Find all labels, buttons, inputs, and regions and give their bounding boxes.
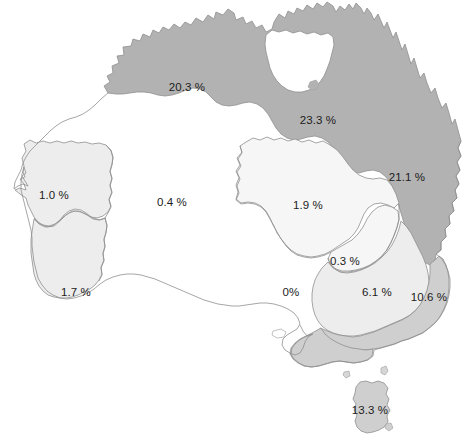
king-island <box>343 371 350 378</box>
tasman-peninsula-islet <box>385 423 393 431</box>
flinders-island <box>381 366 388 375</box>
australia-choropleth-map: 20.3 % 23.3 % 21.1 % 1.0 % 0.4 % 1.9 % 1… <box>0 0 465 443</box>
map-svg-canvas <box>0 0 465 443</box>
region-shape-wa-northwest <box>15 140 113 226</box>
peninsula-detail-sa <box>300 325 312 336</box>
region-shape-tasmania <box>353 381 390 433</box>
kangaroo-island <box>272 329 286 338</box>
